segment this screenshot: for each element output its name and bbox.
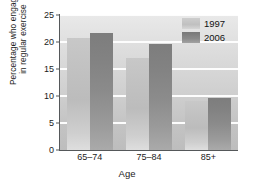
- y-tick-label: 25: [34, 10, 54, 20]
- bar-2006-65_74: [90, 33, 113, 150]
- legend-label-2006: 2006: [204, 32, 225, 43]
- x-tick-label: 65–74: [77, 152, 102, 162]
- x-tick-label: 75–84: [136, 152, 161, 162]
- bar-2006-75_84: [149, 44, 172, 150]
- legend-label-1997: 1997: [204, 18, 225, 29]
- y-tick-label: 10: [34, 91, 54, 101]
- y-tick-label: 15: [34, 64, 54, 74]
- bar-2006-85+: [208, 98, 231, 150]
- bar-1997-85+: [185, 101, 208, 150]
- y-axis-tick-labels: 0510152025: [34, 0, 54, 189]
- x-axis-title: Age: [0, 168, 254, 179]
- legend-item-1997: 1997: [182, 17, 225, 29]
- y-axis-title-line-1: Percentage who engage: [8, 0, 18, 104]
- x-tick-label: 85+: [201, 152, 216, 162]
- y-tick-label: 5: [34, 118, 54, 128]
- legend-swatch-1997: [182, 18, 200, 29]
- bar-group: [126, 15, 172, 150]
- y-axis-title: Percentage who engage in regular exercis…: [8, 0, 28, 104]
- y-tick-label: 20: [34, 37, 54, 47]
- legend: 19972006: [182, 17, 225, 43]
- y-axis-title-line-2: in regular exercise: [18, 0, 28, 104]
- x-axis-line: [59, 150, 238, 151]
- legend-item-2006: 2006: [182, 31, 225, 43]
- bar-group: [67, 15, 113, 150]
- bar-1997-65_74: [67, 38, 90, 150]
- legend-swatch-2006: [182, 32, 200, 43]
- bar-chart-figure: Percentage who engage in regular exercis…: [0, 0, 254, 189]
- y-tick-label: 0: [34, 145, 54, 155]
- bar-1997-75_84: [126, 58, 149, 150]
